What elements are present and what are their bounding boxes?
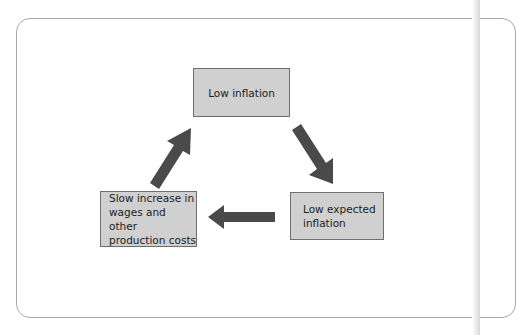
arrow-up-right-icon (150, 128, 191, 189)
arrow-down-right-icon (292, 124, 333, 184)
arrow-left-icon (208, 205, 275, 229)
